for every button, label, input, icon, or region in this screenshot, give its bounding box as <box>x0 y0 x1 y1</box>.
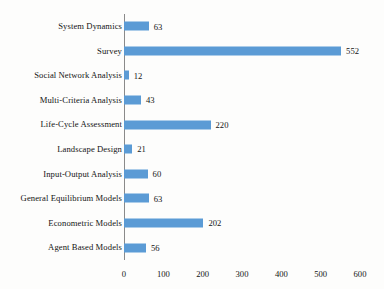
bar-value-label: 552 <box>346 47 359 56</box>
plot-area: System Dynamics63Survey552Social Network… <box>0 0 384 289</box>
bar-row: Multi-Criteria Analysis43 <box>0 88 384 113</box>
x-tick-label: 100 <box>157 270 170 279</box>
bar-value-label: 43 <box>146 96 155 105</box>
category-label: Survey <box>0 47 122 56</box>
bar-row: Agent Based Models56 <box>0 235 384 260</box>
bar <box>124 219 203 228</box>
bar-row: Life-Cycle Assessment220 <box>0 112 384 137</box>
bar <box>124 96 141 105</box>
bar-chart: System Dynamics63Survey552Social Network… <box>0 0 384 289</box>
category-label: Input-Output Analysis <box>0 170 122 179</box>
x-tick-label: 200 <box>196 270 209 279</box>
bar-group: 60 <box>124 169 161 178</box>
x-tick-label: 0 <box>122 270 126 279</box>
category-label: General Equilibrium Models <box>0 194 122 203</box>
bar-row: Landscape Design21 <box>0 137 384 162</box>
x-tick-label: 600 <box>354 270 367 279</box>
bar-row: Input-Output Analysis60 <box>0 162 384 187</box>
category-label: System Dynamics <box>0 22 122 31</box>
category-label: Econometric Models <box>0 219 122 228</box>
bar-row: System Dynamics63 <box>0 14 384 39</box>
bar-value-label: 21 <box>137 145 146 154</box>
bar-rows: System Dynamics63Survey552Social Network… <box>0 14 384 260</box>
bar <box>124 169 148 178</box>
category-label: Landscape Design <box>0 145 122 154</box>
x-tick-label: 400 <box>275 270 288 279</box>
bar-value-label: 60 <box>153 170 162 179</box>
bar-value-label: 63 <box>154 194 163 203</box>
category-label: Life-Cycle Assessment <box>0 120 122 129</box>
category-label: Agent Based Models <box>0 243 122 252</box>
bar <box>124 243 146 252</box>
bar-value-label: 56 <box>151 243 160 252</box>
bar-group: 63 <box>124 22 162 31</box>
x-tick-label: 300 <box>236 270 249 279</box>
bar-value-label: 202 <box>208 219 221 228</box>
bar-group: 202 <box>124 219 221 228</box>
bar-group: 220 <box>124 120 228 129</box>
bar-row: Econometric Models202 <box>0 211 384 236</box>
bar <box>124 71 129 80</box>
bar <box>124 145 132 154</box>
bar-group: 56 <box>124 243 160 252</box>
bar-group: 63 <box>124 194 162 203</box>
bar-group: 43 <box>124 96 155 105</box>
bar-value-label: 220 <box>216 120 229 129</box>
bar <box>124 22 149 31</box>
bar-row: Social Network Analysis12 <box>0 63 384 88</box>
bar-value-label: 12 <box>134 71 143 80</box>
bar-group: 552 <box>124 46 359 55</box>
bar-group: 12 <box>124 71 142 80</box>
bar-value-label: 63 <box>154 22 163 31</box>
bar <box>124 46 341 55</box>
category-label: Social Network Analysis <box>0 71 122 80</box>
bar <box>124 194 149 203</box>
x-axis: 0100200300400500600 <box>0 260 384 289</box>
bar-row: Survey552 <box>0 39 384 64</box>
x-tick-label: 500 <box>314 270 327 279</box>
bar-group: 21 <box>124 145 146 154</box>
bar-row: General Equilibrium Models63 <box>0 186 384 211</box>
bar <box>124 120 211 129</box>
category-label: Multi-Criteria Analysis <box>0 96 122 105</box>
